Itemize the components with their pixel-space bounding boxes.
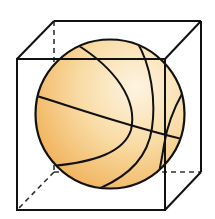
- edge-top-right-depth: [165, 21, 201, 59]
- edge-bottom-right-depth: [165, 172, 201, 210]
- edge-top-left-depth: [17, 21, 54, 59]
- basketball: [34, 40, 186, 191]
- basketball-in-cube-diagram: [0, 0, 215, 219]
- hidden-edge-bottom-left-depth: [17, 172, 54, 210]
- diagram-canvas: [0, 0, 215, 219]
